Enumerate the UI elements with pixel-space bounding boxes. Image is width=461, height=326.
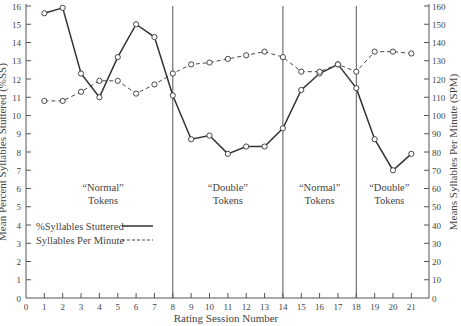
x-tick-label: 15 bbox=[297, 302, 307, 312]
data-point-marker bbox=[42, 98, 47, 103]
y-left-tick-label: 3 bbox=[17, 239, 22, 249]
x-tick-label: 9 bbox=[189, 302, 194, 312]
y-left-tick-label: 6 bbox=[17, 184, 22, 194]
y-left-tick-label: 8 bbox=[17, 148, 22, 158]
y-left-tick-label: 5 bbox=[17, 202, 22, 212]
data-point-marker bbox=[115, 78, 120, 83]
y-right-tick-label: 60 bbox=[432, 184, 442, 194]
x-tick-label: 3 bbox=[79, 302, 84, 312]
data-point-marker bbox=[60, 98, 65, 103]
data-point-marker bbox=[42, 11, 47, 16]
y-left-tick-label: 12 bbox=[12, 75, 21, 85]
y-left-tick-label: 4 bbox=[17, 221, 22, 231]
x-tick-label: 19 bbox=[370, 302, 380, 312]
x-tick-label: 14 bbox=[278, 302, 288, 312]
x-tick-label: 20 bbox=[389, 302, 399, 312]
data-point-marker bbox=[97, 95, 102, 100]
y-right-tick-label: 110 bbox=[432, 93, 446, 103]
y-right-tick-label: 100 bbox=[432, 111, 446, 121]
phase-label: “Normal” bbox=[299, 182, 341, 193]
y-right-tick-label: 50 bbox=[432, 202, 442, 212]
data-point-marker bbox=[97, 78, 102, 83]
x-tick-label: 1 bbox=[42, 302, 47, 312]
legend: %Syllables StutteredSyllables Per Minute bbox=[36, 221, 153, 246]
x-tick-label: 0 bbox=[24, 302, 29, 312]
data-point-marker bbox=[262, 49, 267, 54]
data-point-marker bbox=[409, 151, 414, 156]
y-right-tick-label: 20 bbox=[432, 257, 442, 267]
y-left-tick-label: 14 bbox=[12, 38, 22, 48]
y-left-tick-label: 0 bbox=[17, 294, 22, 304]
phase-label: Tokens bbox=[213, 195, 243, 206]
x-tick-label: 2 bbox=[60, 302, 65, 312]
data-point-marker bbox=[189, 62, 194, 67]
x-tick-label: 8 bbox=[171, 302, 176, 312]
data-point-marker bbox=[372, 49, 377, 54]
y-right-tick-label: 10 bbox=[432, 275, 442, 285]
y-left-tick-label: 16 bbox=[12, 2, 22, 12]
x-tick-label: 5 bbox=[116, 302, 121, 312]
y-right-tick-label: 140 bbox=[432, 38, 446, 48]
y-right-tick-label: 0 bbox=[432, 294, 437, 304]
y-right-tick-label: 160 bbox=[432, 2, 446, 12]
phase-label: Tokens bbox=[305, 195, 335, 206]
data-point-marker bbox=[78, 71, 83, 76]
y-right-tick-label: 150 bbox=[432, 20, 446, 30]
data-point-marker bbox=[244, 53, 249, 58]
x-tick-label: 21 bbox=[407, 302, 416, 312]
data-point-marker bbox=[152, 82, 157, 87]
data-point-marker bbox=[409, 51, 414, 56]
x-axis-label: Rating Session Number bbox=[174, 312, 279, 324]
chart: 0123456789101112131415160102030405060708… bbox=[0, 0, 461, 326]
data-point-marker bbox=[225, 151, 230, 156]
axes: 0123456789101112131415160102030405060708… bbox=[12, 2, 446, 313]
data-point-marker bbox=[207, 60, 212, 65]
x-tick-label: 16 bbox=[315, 302, 325, 312]
legend-label: %Syllables Stuttered bbox=[36, 221, 125, 232]
phase-label: Tokens bbox=[88, 195, 118, 206]
data-point-marker bbox=[299, 69, 304, 74]
x-tick-label: 17 bbox=[333, 302, 343, 312]
data-point-marker bbox=[134, 91, 139, 96]
y-right-tick-label: 40 bbox=[432, 221, 442, 231]
y-right-tick-label: 70 bbox=[432, 166, 442, 176]
data-point-marker bbox=[390, 49, 395, 54]
data-point-marker bbox=[78, 89, 83, 94]
y-left-tick-label: 1 bbox=[17, 275, 22, 285]
x-tick-label: 10 bbox=[205, 302, 215, 312]
x-tick-label: 7 bbox=[152, 302, 157, 312]
phase-label: “Double” bbox=[208, 182, 249, 193]
data-series bbox=[42, 5, 414, 173]
data-point-marker bbox=[207, 133, 212, 138]
data-point-marker bbox=[372, 137, 377, 142]
data-point-marker bbox=[335, 62, 340, 67]
data-point-marker bbox=[354, 69, 359, 74]
y-right-tick-label: 30 bbox=[432, 239, 442, 249]
x-tick-label: 12 bbox=[242, 302, 251, 312]
phase-label: “Normal” bbox=[82, 182, 124, 193]
y-axis-right-label: Means Syllables Per Minute (SPM) bbox=[447, 73, 460, 230]
y-right-tick-label: 90 bbox=[432, 129, 442, 139]
data-point-marker bbox=[170, 93, 175, 98]
data-point-marker bbox=[115, 55, 120, 60]
phase-annotations: “Normal”Tokens“Double”Tokens“Normal”Toke… bbox=[82, 182, 409, 206]
data-point-marker bbox=[262, 144, 267, 149]
data-point-marker bbox=[170, 71, 175, 76]
data-point-marker bbox=[152, 34, 157, 39]
y-left-tick-label: 7 bbox=[17, 166, 22, 176]
x-tick-label: 13 bbox=[260, 302, 270, 312]
y-right-tick-label: 80 bbox=[432, 148, 442, 158]
legend-label: Syllables Per Minute bbox=[36, 235, 124, 246]
y-left-tick-label: 9 bbox=[17, 129, 22, 139]
x-tick-label: 4 bbox=[97, 302, 102, 312]
x-tick-label: 18 bbox=[352, 302, 362, 312]
data-point-marker bbox=[280, 55, 285, 60]
phase-label: Tokens bbox=[374, 195, 404, 206]
y-left-tick-label: 11 bbox=[12, 93, 21, 103]
data-point-marker bbox=[225, 56, 230, 61]
y-axis-left-label: Mean Percent Syllables Stuttered (%SS) bbox=[0, 63, 9, 241]
data-point-marker bbox=[299, 87, 304, 92]
data-point-marker bbox=[390, 168, 395, 173]
data-point-marker bbox=[317, 69, 322, 74]
data-point-marker bbox=[189, 137, 194, 142]
